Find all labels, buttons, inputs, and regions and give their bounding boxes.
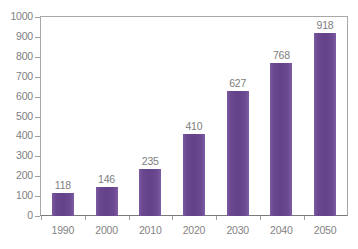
x-axis-tick-mark xyxy=(85,216,86,220)
y-axis-tick-mark xyxy=(35,156,40,157)
y-axis-tick-label: 0 xyxy=(27,209,33,222)
x-axis-labels: 1990200020102020203020402050 xyxy=(41,223,347,239)
bar-group: 410 xyxy=(172,17,215,216)
x-axis-tick xyxy=(85,216,128,221)
y-axis-tick-label: 100 xyxy=(16,189,33,202)
y-axis-tick-label: 400 xyxy=(16,129,33,142)
bar-value-label: 235 xyxy=(129,155,172,167)
y-axis-tick-mark xyxy=(35,57,40,58)
y-axis-tick-label: 200 xyxy=(16,169,33,182)
y-axis-tick-mark xyxy=(35,17,40,18)
bar-value-label: 146 xyxy=(85,173,128,185)
x-axis-tick xyxy=(129,216,172,221)
x-axis-label: 2010 xyxy=(129,223,172,239)
x-axis-tick-mark xyxy=(129,216,130,220)
x-axis-tick xyxy=(216,216,259,221)
x-axis-tick-mark xyxy=(41,216,42,220)
y-axis-tick-label: 700 xyxy=(16,70,33,83)
x-axis-label: 2000 xyxy=(85,223,128,239)
bar-group: 918 xyxy=(304,17,347,216)
bar-value-label: 768 xyxy=(260,49,303,61)
bar xyxy=(270,63,292,216)
bars-layer: 118146235410627768918 xyxy=(41,17,347,216)
x-axis-label: 2040 xyxy=(260,223,303,239)
bar-chart: 01002003004005006007008009001000 1181462… xyxy=(0,0,358,249)
x-axis-tick-mark xyxy=(216,216,217,220)
x-axis-tick xyxy=(41,216,84,221)
x-axis-label: 2030 xyxy=(216,223,259,239)
y-axis-tick-label: 800 xyxy=(16,50,33,63)
bar-value-label: 410 xyxy=(172,120,215,132)
y-axis-tick-label: 500 xyxy=(16,110,33,123)
bar-value-label: 118 xyxy=(41,179,84,191)
bar xyxy=(52,193,74,216)
bar-group: 627 xyxy=(216,17,259,216)
x-axis-tick-mark xyxy=(304,216,305,220)
y-axis-tick-mark xyxy=(35,97,40,98)
x-axis-tick xyxy=(260,216,303,221)
x-axis-tick-mark xyxy=(172,216,173,220)
bar xyxy=(314,33,336,216)
bar xyxy=(183,134,205,216)
bar-value-label: 627 xyxy=(216,77,259,89)
y-axis-tick-mark xyxy=(35,196,40,197)
y-axis-tick-label: 900 xyxy=(16,30,33,43)
y-axis: 01002003004005006007008009001000 xyxy=(0,16,40,217)
x-axis-tick xyxy=(304,216,347,221)
bar-value-label: 918 xyxy=(304,19,347,31)
y-axis-tick-mark xyxy=(35,77,40,78)
bar xyxy=(96,187,118,216)
x-axis-tick xyxy=(172,216,215,221)
x-axis-label: 2050 xyxy=(304,223,347,239)
y-axis-tick-label: 300 xyxy=(16,149,33,162)
x-axis-label: 2020 xyxy=(172,223,215,239)
y-axis-tick-mark xyxy=(35,117,40,118)
x-axis-label: 1990 xyxy=(41,223,84,239)
y-axis-tick-mark xyxy=(35,37,40,38)
bar-group: 235 xyxy=(129,17,172,216)
bar-group: 146 xyxy=(85,17,128,216)
y-axis-tick-mark xyxy=(35,176,40,177)
bar-group: 118 xyxy=(41,17,84,216)
y-axis-tick-label: 600 xyxy=(16,90,33,103)
bar-group: 768 xyxy=(260,17,303,216)
bar xyxy=(139,169,161,216)
y-axis-tick-mark xyxy=(35,136,40,137)
bar xyxy=(227,91,249,216)
x-axis-ticks xyxy=(41,216,347,221)
y-axis-tick-mark xyxy=(35,216,40,217)
x-axis-tick-mark xyxy=(260,216,261,220)
y-axis-tick-label: 1000 xyxy=(10,10,33,23)
